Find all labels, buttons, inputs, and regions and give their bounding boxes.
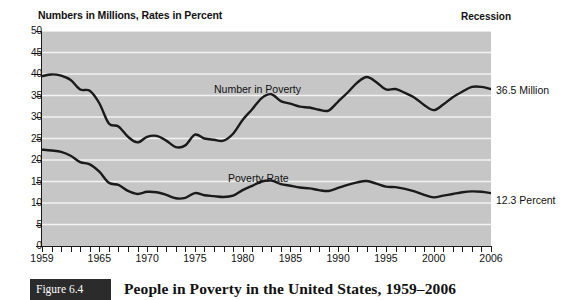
y-tick-label: 50 <box>8 26 42 36</box>
x-tick-mark <box>271 247 272 252</box>
x-tick-mark <box>80 247 81 252</box>
x-tick-mark <box>319 247 320 252</box>
y-tick-label: 40 <box>8 69 42 79</box>
y-tick-label: 15 <box>8 177 42 187</box>
recession-header-label: Recession <box>461 11 511 22</box>
x-tick-mark <box>176 247 177 252</box>
y-tick-label: 30 <box>8 112 42 122</box>
x-tick-mark <box>224 247 225 252</box>
y-tick-label: 25 <box>8 134 42 144</box>
y-tick-label: 5 <box>8 220 42 230</box>
x-tick-mark <box>61 247 62 252</box>
y-tick-label: 45 <box>8 48 42 58</box>
x-tick-label: 1995 <box>374 253 397 264</box>
x-tick-mark <box>405 247 406 252</box>
poverty-figure: Numbers in Millions, Rates in Percent Re… <box>0 0 566 300</box>
figure-caption: Figure 6.4 People in Poverty in the Unit… <box>0 279 566 300</box>
figure-number-box: Figure 6.4 <box>30 279 111 300</box>
x-tick-label: 1970 <box>135 253 158 264</box>
x-tick-mark <box>462 247 463 252</box>
chart-canvas <box>42 31 491 246</box>
x-tick-mark <box>118 247 119 252</box>
x-tick-label: 1985 <box>279 253 302 264</box>
y-tick-label: 20 <box>8 155 42 165</box>
figure-caption-text: People in Poverty in the United States, … <box>124 280 456 298</box>
figure-number-label: Figure 6.4 <box>36 283 83 295</box>
chart-title: Numbers in Millions, Rates in Percent <box>38 9 222 21</box>
plot-area <box>42 31 491 246</box>
x-tick-mark <box>357 247 358 252</box>
x-tick-mark <box>71 247 72 252</box>
y-tick-label: 35 <box>8 91 42 101</box>
x-tick-mark <box>166 247 167 252</box>
x-tick-mark <box>128 247 129 252</box>
end-annotation-number-in-poverty: 36.5 Million <box>496 84 549 96</box>
series-label-poverty-rate: Poverty Rate <box>228 172 289 184</box>
x-tick-label: 2006 <box>479 253 502 264</box>
x-tick-label: 2000 <box>422 253 445 264</box>
x-tick-mark <box>310 247 311 252</box>
end-annotation-poverty-rate: 12.3 Percent <box>496 194 556 206</box>
x-tick-mark <box>472 247 473 252</box>
x-axis-tick-labels: 1959196519701975198019851990199520002006 <box>0 253 566 269</box>
x-tick-label: 1990 <box>326 253 349 264</box>
y-tick-label: 10 <box>8 198 42 208</box>
y-tick-label: 0 <box>8 241 42 251</box>
x-tick-label: 1959 <box>30 253 53 264</box>
x-tick-label: 1965 <box>88 253 111 264</box>
x-tick-mark <box>262 247 263 252</box>
series-label-number-in-poverty: Number in Poverty <box>214 83 301 95</box>
x-tick-mark <box>453 247 454 252</box>
x-tick-mark <box>415 247 416 252</box>
x-tick-mark <box>214 247 215 252</box>
x-tick-label: 1980 <box>231 253 254 264</box>
x-tick-label: 1975 <box>183 253 206 264</box>
x-tick-mark <box>367 247 368 252</box>
